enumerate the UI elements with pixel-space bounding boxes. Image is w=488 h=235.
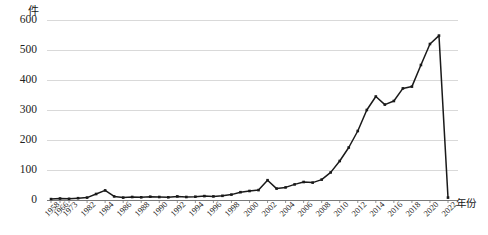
y-axis-tick-label: 200 (0, 134, 42, 146)
data-point-marker (131, 196, 134, 199)
x-axis-tick-label: 2014 (368, 200, 386, 218)
data-point-marker (149, 195, 152, 198)
data-point-marker (122, 196, 125, 199)
x-axis-tick-label: 2010 (332, 200, 350, 218)
data-point-marker (203, 195, 206, 198)
y-axis-tick-label: 0 (0, 194, 42, 206)
y-axis-tick-label: 100 (0, 164, 42, 176)
data-series-line (47, 20, 458, 200)
x-axis-tick-label: 2006 (296, 200, 314, 218)
data-point-marker (140, 196, 143, 199)
data-point-marker (257, 189, 260, 192)
data-point-marker (402, 87, 405, 90)
chart-container: 件 0100200300400500600 195819661973198219… (0, 0, 488, 235)
data-point-marker (393, 100, 396, 103)
x-axis-tick-label: 1984 (97, 200, 115, 218)
data-point-marker (411, 85, 414, 88)
data-point-marker (429, 43, 432, 46)
data-point-marker (302, 181, 305, 184)
x-axis-tick-label: 1992 (169, 200, 187, 218)
y-axis-tick-label: 500 (0, 44, 42, 56)
data-point-marker (86, 196, 89, 199)
data-point-marker (338, 160, 341, 163)
x-axis-tick-label: 2016 (386, 200, 404, 218)
x-axis-tick-label: 1996 (205, 200, 223, 218)
y-axis-tick-label: 300 (0, 104, 42, 116)
x-axis-tick-label: 1988 (133, 200, 151, 218)
data-point-marker (221, 195, 224, 198)
series-path (51, 36, 448, 200)
x-axis-tick-label: 2002 (260, 200, 278, 218)
data-point-marker (248, 190, 251, 193)
data-point-marker (329, 171, 332, 174)
x-axis-tick-label: 2000 (241, 200, 259, 218)
y-axis-tick-labels: 0100200300400500600 (0, 0, 42, 235)
data-point-marker (275, 187, 278, 190)
data-point-marker (239, 191, 242, 194)
x-axis-tick-label: 2004 (278, 200, 296, 218)
x-axis-tick-label: 2018 (404, 200, 422, 218)
data-point-marker (185, 196, 188, 199)
data-point-marker (266, 179, 269, 182)
y-axis-tick-label: 600 (0, 14, 42, 26)
x-axis-tick-label: 1986 (115, 200, 133, 218)
data-point-marker (212, 195, 215, 198)
x-axis-tick-label: 1990 (151, 200, 169, 218)
data-point-marker (95, 193, 98, 196)
data-point-marker (104, 189, 107, 192)
x-axis-tick-label: 2012 (350, 200, 368, 218)
data-point-marker (438, 34, 441, 37)
data-point-marker (158, 196, 161, 199)
x-axis-tick-label: 2008 (314, 200, 332, 218)
x-axis-tick-label: 1998 (223, 200, 241, 218)
data-point-marker (366, 109, 369, 112)
data-point-marker (347, 146, 350, 149)
x-axis-tick-label: 1982 (79, 200, 97, 218)
data-point-marker (375, 95, 378, 98)
x-axis-tick-label: 1994 (187, 200, 205, 218)
data-point-marker (447, 196, 450, 199)
x-axis-title: 年份 (456, 198, 476, 209)
y-axis-tick-label: 400 (0, 74, 42, 86)
data-point-marker (176, 195, 179, 198)
data-point-marker (293, 183, 296, 186)
data-point-marker (113, 195, 116, 198)
data-point-marker (230, 193, 233, 196)
data-point-marker (384, 103, 387, 106)
data-point-marker (356, 130, 359, 133)
data-point-marker (320, 178, 323, 181)
data-point-marker (167, 196, 170, 199)
data-point-marker (420, 64, 423, 67)
x-axis-tick-labels: 1958196619731982198419861988199019921994… (47, 200, 458, 235)
data-point-marker (311, 181, 314, 184)
x-axis-tick-label: 2020 (422, 200, 440, 218)
plot-area (47, 20, 458, 200)
data-point-marker (284, 186, 287, 189)
data-point-marker (194, 195, 197, 198)
